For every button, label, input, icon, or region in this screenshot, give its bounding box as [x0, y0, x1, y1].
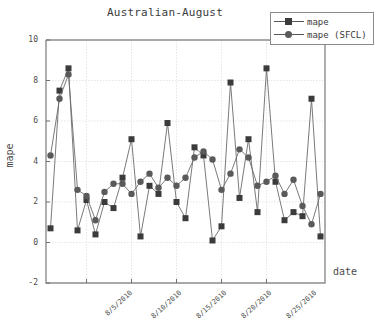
legend-swatch-square-icon	[274, 16, 304, 28]
gridlines	[46, 40, 325, 283]
series-layer	[47, 65, 323, 243]
legend-item-mape-sfcl[interactable]: mape (SFCL)	[274, 28, 370, 41]
y-tick-label: 2	[16, 197, 38, 206]
y-axis-title: mape	[4, 136, 15, 176]
x-axis-title: date	[333, 266, 357, 277]
legend-label: mape (SFCL)	[307, 30, 367, 40]
chart-root: Australian-August mape date -20246810 8/…	[0, 0, 378, 327]
plot-area	[0, 0, 378, 327]
legend-swatch-circle-icon	[274, 29, 304, 41]
y-tick-label: 6	[16, 116, 38, 125]
legend-item-mape[interactable]: mape	[274, 15, 370, 28]
legend-label: mape	[307, 17, 329, 27]
y-tick-label: 8	[16, 76, 38, 85]
y-tick-label: 4	[16, 157, 38, 166]
y-tick-label: 10	[16, 35, 38, 44]
legend: mape mape (SFCL)	[270, 12, 374, 45]
y-tick-label: -2	[16, 278, 38, 287]
y-tick-label: 0	[16, 238, 38, 247]
